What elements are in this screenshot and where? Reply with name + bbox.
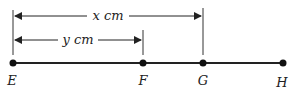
label-g: G	[198, 73, 208, 88]
point-g	[200, 60, 207, 67]
measurement-y-label: y cm	[61, 32, 93, 47]
point-e	[10, 60, 17, 67]
label-e: E	[6, 73, 17, 88]
measurement-x: x cm	[15, 8, 201, 23]
point-h	[280, 60, 287, 67]
measurement-x-label: x cm	[92, 8, 123, 23]
measurement-y: y cm	[15, 32, 141, 47]
point-f	[140, 60, 147, 67]
label-h: H	[275, 75, 288, 90]
label-f: F	[137, 73, 148, 88]
line-segment-diagram: x cm y cm E F G H	[0, 0, 295, 92]
